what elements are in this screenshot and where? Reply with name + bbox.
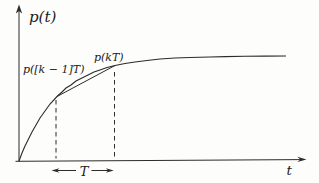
interval-label: T — [80, 164, 90, 179]
interval-annotation: T — [52, 164, 114, 179]
prev-sample-label: p([k − 1]T) — [23, 63, 84, 76]
figure-canvas: T p(t) t p([k − 1]T) p(kT) — [0, 0, 319, 183]
y-axis-label: p(t) — [29, 8, 56, 26]
x-axis-label: t — [287, 162, 293, 178]
x-axis-line — [16, 160, 302, 162]
y-axis — [16, 5, 22, 162]
curr-sample-label: p(kT) — [94, 51, 124, 64]
x-axis — [16, 157, 307, 162]
sampling-diagram: T p(t) t p([k − 1]T) p(kT) — [0, 0, 319, 183]
